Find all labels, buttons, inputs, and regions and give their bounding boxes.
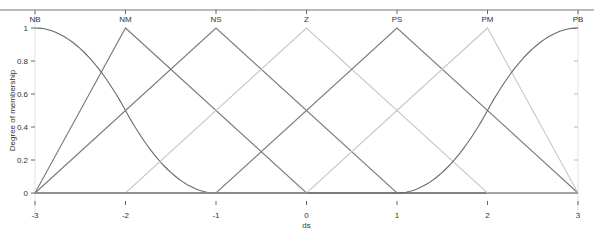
series-label-ps: PS [392,15,403,24]
x-tick-label: 0 [304,211,309,220]
x-tick-label: -3 [31,211,39,220]
series-ps [35,28,578,193]
series-label-ns: NS [210,15,221,24]
x-tick-label: -2 [122,211,130,220]
y-axis-label: Degree of membership [8,69,17,151]
x-axis-label: ds [302,221,310,230]
y-tick-label: 0.6 [17,90,29,99]
series-label-nb: NB [29,15,40,24]
plot-area [35,28,578,193]
x-tick-label: 3 [576,211,581,220]
series-label-pb: PB [573,15,584,24]
series-label-z: Z [304,15,309,24]
y-tick-label: 0.8 [17,57,29,66]
axes [0,10,594,213]
y-tick-label: 0.2 [17,156,29,165]
series-label-pm: PM [482,15,494,24]
x-tick-label: 2 [485,211,490,220]
x-tick-label: 1 [395,211,400,220]
y-tick-label: 0.4 [17,123,29,132]
membership-function-chart: 00.20.40.60.81-3-2-10123dsDegree of memb… [0,0,594,240]
x-tick-label: -1 [212,211,220,220]
y-tick-label: 1 [24,24,29,33]
y-tick-label: 0 [24,189,29,198]
labels: 00.20.40.60.81-3-2-10123dsDegree of memb… [8,15,583,230]
series-label-nm: NM [119,15,132,24]
